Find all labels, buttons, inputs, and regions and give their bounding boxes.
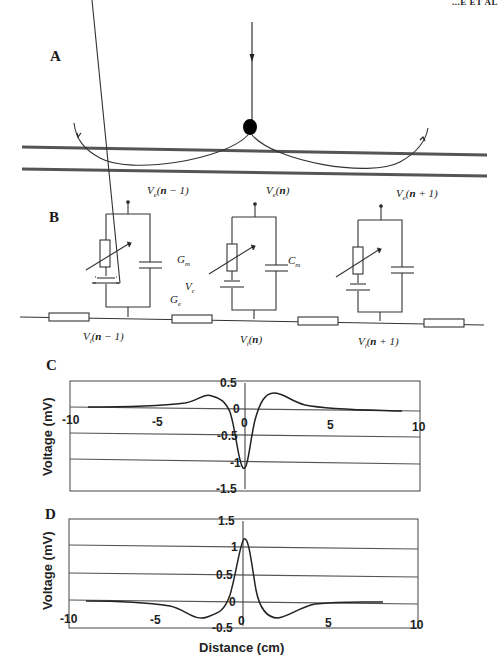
d-xtick-0: -10 [60,612,77,626]
label-ve-n-plus-1: Ve(n + 1) [396,187,438,202]
current-arc-right [252,128,428,168]
d-xtick-2: 0 [238,614,245,628]
d-xtick-1: -5 [150,613,161,627]
d-ytick-2: 0.5 [216,568,233,582]
panel-label-d: D [45,506,56,523]
arc-arrow-left-icon [77,133,81,137]
panel-label-b: B [49,209,59,226]
resistor-ge-4 [424,319,464,327]
current-arc-left [74,123,248,165]
arc-arrow-right-icon [420,137,425,141]
panel-a-diagram [22,22,487,176]
label-gm: Gm [177,253,190,268]
label-vi-n-minus-1: Vi(n − 1) [83,330,124,345]
c-ytick-2: -0.5 [217,429,238,443]
d-xlabel: Distance (cm) [199,640,284,655]
label-ve-n: Ve(n) [266,184,289,199]
d-ytick-0: 1.5 [218,514,235,528]
membrane-circuit-2 [209,203,288,319]
c-xtick-0: -10 [62,413,79,427]
label-vi-n-plus-1: Vi(n + 1) [358,335,399,350]
cell-body [243,119,257,135]
panel-label-a: A [50,48,61,65]
c-xtick-2: 0 [241,416,248,430]
d-xtick-3: 5 [325,616,332,630]
membrane-circuit-1 [86,0,162,317]
c-ylabel: Voltage (mV) [40,398,55,477]
membrane-circuit-3 [336,205,414,321]
label-ge: Ge [170,293,181,308]
label-cm: Cm [288,254,300,269]
label-vc: Vc [185,280,195,295]
c-ytick-4: -1.5 [216,482,237,496]
label-vi-n: Vi(n) [240,333,262,348]
c-ytick-1: 0 [233,402,240,416]
d-xtick-4: 10 [410,618,423,632]
resistor-ge-1 [49,313,89,321]
c-ytick-3: -1 [230,456,241,470]
figure-graphics [0,0,504,663]
c-ytick-0: 0.5 [220,376,237,390]
c-xtick-3: 5 [327,418,334,432]
axon-membrane-lower [22,169,487,176]
c-xtick-4: 10 [412,420,425,434]
label-ve-n-minus-1: Ve(n − 1) [147,184,189,199]
panel-label-c: C [46,357,57,374]
c-xtick-1: -5 [152,415,163,429]
d-ylabel: Voltage (mV) [40,532,55,611]
chart-d [69,519,418,628]
d-ytick-4: -0.5 [212,621,233,635]
d-ytick-1: 1 [231,540,238,554]
d-ytick-3: 0 [229,595,236,609]
resistor-ge-2 [172,315,212,323]
down-arrow-icon [250,54,255,62]
resistor-ge-3 [298,317,338,325]
chart-c [70,381,420,491]
